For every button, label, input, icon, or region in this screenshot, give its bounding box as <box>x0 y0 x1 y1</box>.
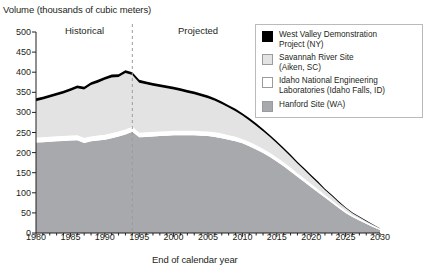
legend-label-line2: (Aiken, SC) <box>279 63 321 72</box>
legend-swatch-icon <box>262 54 273 65</box>
legend-item-hanford: Hanford Site (WA) <box>262 100 417 112</box>
legend-label-line1: West Valley Demonstration <box>279 30 377 39</box>
legend-label-line1: Savannah River Site <box>279 53 354 62</box>
legend-label: Hanford Site (WA) <box>279 100 345 110</box>
legend-label: Idaho National EngineeringLaboratories (… <box>279 76 385 95</box>
legend-swatch-icon <box>262 31 273 42</box>
legend-label-line1: Hanford Site (WA) <box>279 100 345 109</box>
legend-item-idaho-national: Idaho National EngineeringLaboratories (… <box>262 76 417 95</box>
legend-swatch-icon <box>262 101 273 112</box>
area-series-hanford <box>36 132 380 233</box>
chart-legend: West Valley DemonstrationProject (NY)Sav… <box>255 24 423 118</box>
legend-label: West Valley DemonstrationProject (NY) <box>279 30 377 49</box>
legend-label: Savannah River Site(Aiken, SC) <box>279 53 354 72</box>
legend-item-west-valley: West Valley DemonstrationProject (NY) <box>262 30 417 49</box>
legend-label-line2: Laboratories (Idaho Falls, ID) <box>279 86 385 95</box>
chart-container: Volume (thousands of cubic meters) Histo… <box>0 0 427 276</box>
legend-item-savannah-river: Savannah River Site(Aiken, SC) <box>262 53 417 72</box>
legend-label-line2: Project (NY) <box>279 40 324 49</box>
x-axis-title: End of calendar year <box>152 254 238 265</box>
legend-label-line1: Idaho National Engineering <box>279 76 378 85</box>
legend-swatch-icon <box>262 77 273 88</box>
